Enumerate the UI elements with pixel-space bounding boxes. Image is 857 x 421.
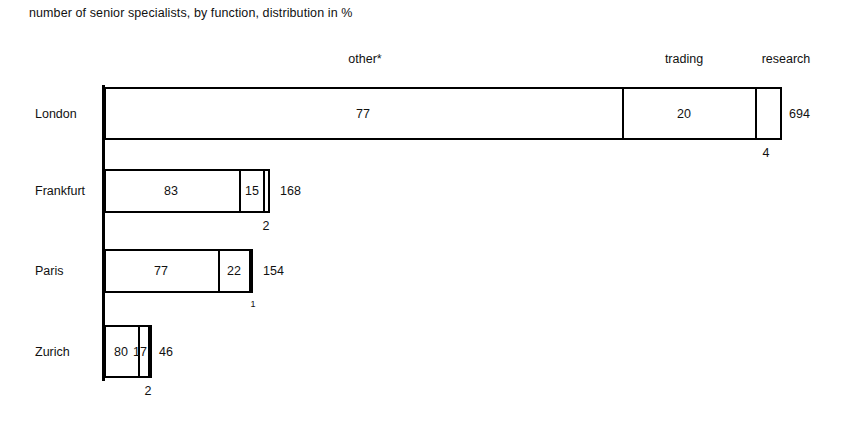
column-header-research: research bbox=[762, 52, 811, 66]
total-label-paris: 154 bbox=[263, 264, 284, 278]
chart-root: number of senior specialists, by functio… bbox=[0, 0, 857, 421]
total-label-london: 694 bbox=[789, 107, 810, 121]
below-label-london-research-count: 4 bbox=[763, 146, 770, 160]
segment-divider bbox=[249, 251, 252, 291]
segment-divider bbox=[239, 171, 242, 211]
row-label-zurich: Zurich bbox=[35, 345, 70, 359]
below-label-zurich-research-count: 2 bbox=[145, 384, 152, 398]
total-label-zurich: 46 bbox=[159, 345, 173, 359]
below-label-paris-research-count: 1 bbox=[250, 299, 255, 309]
below-label-frankfurt-research-count: 2 bbox=[263, 219, 270, 233]
segment-divider bbox=[148, 327, 151, 376]
row-label-paris: Paris bbox=[35, 264, 63, 278]
segment-divider bbox=[622, 89, 625, 138]
chart-title: number of senior specialists, by functio… bbox=[29, 6, 353, 20]
segment-value-zurich-trading: 17 bbox=[133, 345, 147, 359]
segment-divider bbox=[755, 89, 758, 138]
column-header-trading: trading bbox=[665, 52, 703, 66]
row-label-london: London bbox=[35, 107, 77, 121]
segment-divider bbox=[218, 251, 221, 291]
column-header-other: other* bbox=[348, 52, 381, 66]
segment-value-paris-trading: 22 bbox=[227, 264, 241, 278]
segment-value-london-other: 77 bbox=[356, 107, 370, 121]
segment-value-zurich-other: 80 bbox=[114, 345, 128, 359]
row-label-frankfurt: Frankfurt bbox=[35, 184, 85, 198]
segment-divider bbox=[263, 171, 266, 211]
segment-value-london-trading: 20 bbox=[677, 107, 691, 121]
segment-value-frankfurt-other: 83 bbox=[164, 184, 178, 198]
segment-value-frankfurt-trading: 15 bbox=[245, 184, 259, 198]
segment-value-paris-other: 77 bbox=[154, 264, 168, 278]
total-label-frankfurt: 168 bbox=[280, 184, 301, 198]
